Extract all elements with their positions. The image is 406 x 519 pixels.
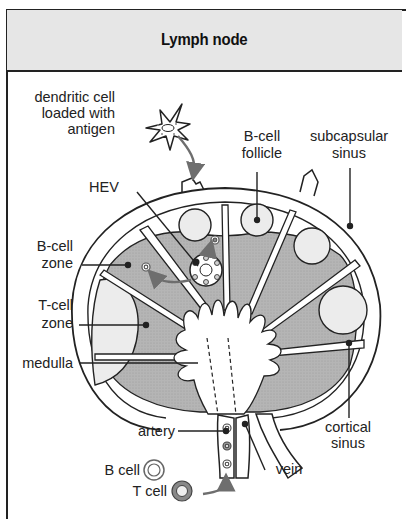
label-hev: HEV — [89, 179, 119, 195]
label-b-cell-follicle-2: follicle — [242, 145, 282, 161]
label-b-cell-zone-1: B-cell — [37, 238, 73, 254]
t-cell-entry-arrow — [203, 482, 226, 494]
label-subcapsular-sinus-1: subcapsular — [310, 128, 388, 144]
label-dendritic-cell-1: dendritic cell — [34, 89, 115, 105]
label-cortical-sinus-1: cortical — [325, 419, 371, 435]
label-t-cell-zone-2: zone — [42, 315, 73, 331]
label-b-cell-follicle-1: B-cell — [244, 128, 280, 144]
label-medulla: medulla — [22, 355, 74, 371]
label-dendritic-cell-3: antigen — [67, 121, 115, 137]
label-subcapsular-sinus-2: sinus — [332, 145, 366, 161]
legend-b-cell-icon — [144, 460, 164, 480]
legend-t-cell-label: T cell — [133, 483, 167, 499]
label-dendritic-cell-2: loaded with — [42, 105, 115, 121]
label-t-cell-zone-1: T-cell — [38, 297, 73, 313]
legend-t-cell-icon — [172, 481, 192, 501]
legend-b-cell-label: B cell — [105, 462, 140, 478]
label-vein: vein — [276, 461, 303, 477]
dendritic-migration-arrow — [178, 136, 194, 172]
label-cortical-sinus-2: sinus — [331, 435, 365, 451]
label-artery: artery — [138, 423, 176, 439]
hev-vessel — [190, 254, 222, 286]
label-b-cell-zone-2: zone — [42, 255, 73, 271]
